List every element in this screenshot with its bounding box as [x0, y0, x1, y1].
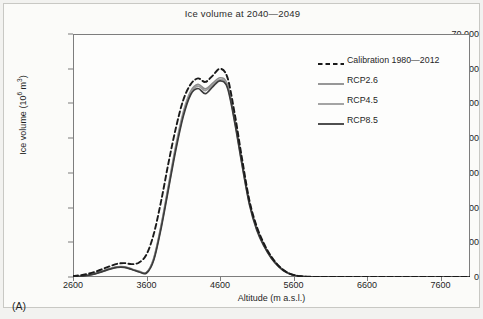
legend-item-label: RCP8.5 [347, 115, 378, 125]
legend-line-swatch [318, 95, 344, 105]
y-axis-label-text: Ice volume (10 [18, 96, 28, 155]
x-tick-mark [367, 277, 368, 281]
x-tick-label: 5600 [284, 280, 304, 290]
x-tick-label: 3600 [137, 280, 157, 290]
y-axis-label-unit: m [18, 82, 28, 92]
x-axis-label: Altitude (m a.s.l.) [73, 293, 470, 303]
chart-legend: Calibration 1980—2012RCP2.6RCP4.5RCP8.5 [318, 51, 468, 131]
y-axis-label-paren: ) [18, 75, 28, 78]
x-tick-mark [73, 277, 74, 281]
x-tick-mark [147, 277, 148, 281]
y-axis-label: Ice volume (106 m3) [16, 35, 28, 195]
legend-item-label: RCP4.5 [347, 95, 378, 105]
y-axis-label-exponent2: 3 [16, 78, 23, 82]
figure-container: Ice volume at 2040—2049 Ice volume (106 … [0, 0, 483, 319]
legend-item[interactable]: Calibration 1980—2012 [318, 51, 468, 68]
legend-item[interactable]: RCP2.6 [318, 71, 468, 88]
x-tick-label: 6600 [357, 280, 377, 290]
x-tick-label: 4600 [210, 280, 230, 290]
y-axis-label-exponent: 6 [16, 92, 23, 96]
legend-item[interactable]: RCP8.5 [318, 111, 468, 128]
x-tick-mark [441, 277, 442, 281]
x-tick-mark [294, 277, 295, 281]
chart-title: Ice volume at 2040—2049 [4, 8, 481, 19]
legend-line-swatch [318, 115, 344, 125]
x-tick-label: 7600 [431, 280, 451, 290]
x-tick-label: 2600 [63, 280, 83, 290]
legend-item[interactable]: RCP4.5 [318, 91, 468, 108]
x-tick-mark [220, 277, 221, 281]
legend-item-label: RCP2.6 [347, 75, 378, 85]
legend-line-swatch [318, 55, 344, 65]
legend-line-swatch [318, 75, 344, 85]
panel-label: (A) [12, 300, 26, 312]
figure-inner-panel: Ice volume at 2040—2049 Ice volume (106 … [3, 3, 480, 308]
legend-item-label: Calibration 1980—2012 [347, 55, 439, 65]
